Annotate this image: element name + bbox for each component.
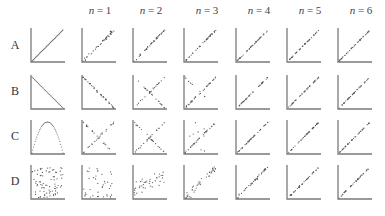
data-point <box>144 88 145 89</box>
data-point <box>340 59 341 60</box>
data-point <box>214 171 215 172</box>
data-point <box>241 193 242 194</box>
data-point <box>194 190 195 191</box>
data-point <box>98 136 99 137</box>
data-point <box>191 101 192 102</box>
data-point <box>60 105 61 106</box>
data-point <box>41 187 42 188</box>
data-point <box>97 183 98 184</box>
data-point <box>351 47 352 48</box>
data-point <box>241 103 242 104</box>
data-point <box>56 178 57 179</box>
data-point <box>369 122 370 123</box>
data-point <box>207 85 208 86</box>
data-point <box>56 187 57 188</box>
data-point <box>103 184 104 185</box>
data-point <box>111 194 112 195</box>
data-point <box>247 97 248 98</box>
data-point <box>354 136 355 137</box>
data-point <box>136 181 137 182</box>
data-point <box>151 139 152 140</box>
data-point <box>264 125 265 126</box>
data-point <box>36 81 37 82</box>
data-point <box>144 182 145 183</box>
data-point <box>50 123 51 124</box>
data-point <box>185 197 186 198</box>
data-point <box>363 128 364 129</box>
data-point <box>251 46 252 47</box>
data-point <box>357 89 358 90</box>
data-point <box>359 39 360 40</box>
data-point <box>358 133 359 134</box>
scatter-panel-c-2 <box>133 120 167 154</box>
data-point <box>49 190 50 191</box>
data-point <box>240 148 241 149</box>
data-point <box>318 30 319 31</box>
data-point <box>199 182 200 183</box>
data-point <box>239 150 240 151</box>
data-point <box>246 187 247 188</box>
data-point <box>91 53 92 54</box>
data-point <box>90 189 91 190</box>
data-point <box>103 97 104 98</box>
data-point <box>62 174 63 175</box>
data-point <box>316 169 317 170</box>
data-point <box>57 134 58 135</box>
data-point <box>43 124 44 125</box>
scatter-panel-grid <box>0 0 385 216</box>
data-point <box>162 124 163 125</box>
data-point <box>55 193 56 194</box>
data-point <box>300 49 301 50</box>
data-point <box>313 82 314 83</box>
data-point <box>152 182 153 183</box>
data-point <box>159 176 160 177</box>
axis-lines <box>82 75 116 109</box>
data-point <box>89 178 90 179</box>
data-point <box>102 133 103 134</box>
data-point <box>206 176 207 177</box>
data-point <box>33 147 34 148</box>
data-point <box>50 167 51 168</box>
data-point <box>84 78 85 79</box>
data-point <box>85 194 86 195</box>
data-point <box>359 86 360 87</box>
data-point <box>203 90 204 91</box>
data-point <box>345 100 346 101</box>
data-point <box>299 185 300 186</box>
data-point <box>104 181 105 182</box>
data-point <box>249 48 250 49</box>
data-point <box>146 180 147 181</box>
data-point <box>261 172 262 173</box>
data-point <box>161 33 162 34</box>
data-point <box>139 186 140 187</box>
data-point <box>250 47 251 48</box>
scatter-panel-b-1 <box>82 75 116 109</box>
data-point <box>158 146 159 147</box>
data-point <box>56 101 57 102</box>
data-point <box>212 80 213 81</box>
data-point <box>349 97 350 98</box>
data-point <box>109 103 110 104</box>
data-point <box>87 171 88 172</box>
data-point <box>155 38 156 39</box>
data-point <box>104 144 105 145</box>
data-point <box>59 104 60 105</box>
data-point <box>97 196 98 197</box>
data-point <box>90 196 91 197</box>
data-point <box>101 43 102 44</box>
data-point <box>299 141 300 142</box>
data-point <box>108 36 109 37</box>
data-point <box>353 138 354 139</box>
data-point <box>355 91 356 92</box>
data-point <box>109 188 110 189</box>
data-point <box>244 100 245 101</box>
data-point <box>158 36 159 37</box>
data-point <box>84 58 85 59</box>
axis-lines <box>133 165 167 199</box>
data-point <box>43 88 44 89</box>
data-point <box>159 173 160 174</box>
data-point <box>248 95 249 96</box>
data-point <box>350 186 351 187</box>
data-point <box>294 191 295 192</box>
data-point <box>195 50 196 51</box>
